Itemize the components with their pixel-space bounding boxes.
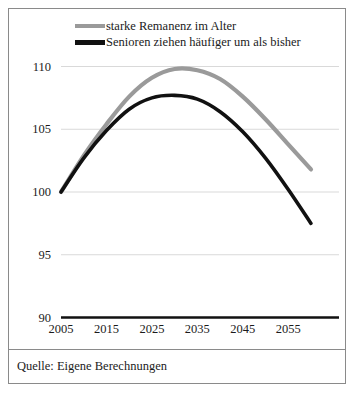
legend-label-senioren-ziehen: Senioren ziehen häufiger um als bisher: [105, 35, 301, 49]
y-tick-label: 95: [17, 249, 51, 261]
legend-item-starke-remanenz: starke Remanenz im Alter: [75, 18, 343, 34]
series-line-2: [61, 95, 311, 223]
y-tick-label: 90: [17, 312, 51, 324]
x-tick-label: 2035: [175, 323, 219, 335]
x-tick-label: 2025: [130, 323, 174, 335]
legend-line-swatch-gray-icon: [75, 24, 105, 28]
plot-area: starke Remanenz im Alter Senioren ziehen…: [9, 9, 345, 347]
source-separator: [9, 349, 345, 350]
legend-line-swatch-black-icon: [75, 40, 105, 45]
legend-item-senioren-ziehen: Senioren ziehen häufiger um als bisher: [75, 34, 343, 50]
x-tick-label: 2045: [221, 323, 265, 335]
y-tick-label: 110: [17, 61, 51, 73]
x-tick-label: 2055: [266, 323, 310, 335]
x-tick-label: 2015: [84, 323, 128, 335]
legend-label-starke-remanenz: starke Remanenz im Alter: [105, 19, 236, 33]
gridlines: [61, 67, 339, 255]
line-chart-svg: [9, 9, 345, 347]
chart-figure: starke Remanenz im Alter Senioren ziehen…: [8, 8, 346, 384]
source-note: Quelle: Eigene Berechnungen: [17, 359, 167, 374]
series-lines: [61, 68, 311, 223]
chart-legend: starke Remanenz im Alter Senioren ziehen…: [75, 18, 343, 50]
y-tick-label: 105: [17, 123, 51, 135]
x-tick-label: 2005: [39, 323, 83, 335]
y-tick-label: 100: [17, 186, 51, 198]
series-line-1: [61, 68, 311, 192]
